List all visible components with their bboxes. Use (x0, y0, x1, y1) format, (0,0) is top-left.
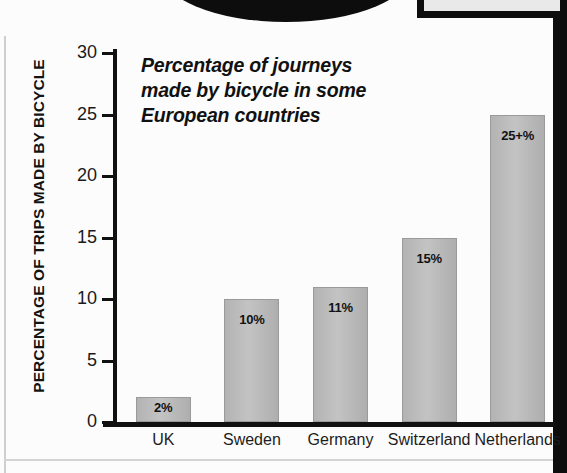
bar-germany: 11% (313, 287, 368, 422)
y-tick-5: 5 (102, 360, 113, 363)
bar-netherlands: 25+% (490, 115, 545, 423)
category-label-uk: UK (119, 431, 208, 449)
category-label-netherlands: Netherlands (473, 431, 562, 449)
bar-value-sweden: 10% (225, 312, 278, 327)
y-tick-label-5: 5 (87, 350, 97, 371)
y-tick-label-15: 15 (77, 227, 97, 248)
category-label-germany: Germany (296, 431, 385, 449)
y-axis-line (113, 49, 117, 426)
y-tick-label-30: 30 (77, 42, 97, 63)
page-left-rule (4, 36, 6, 473)
y-tick-label-20: 20 (77, 165, 97, 186)
y-tick-10: 10 (102, 298, 113, 301)
y-tick-0: 0 (102, 421, 113, 424)
chart-title-line-1: Percentage of journeys (141, 53, 366, 78)
chart-title-line-3: European countries (141, 103, 366, 128)
y-axis-title: PERCENTAGE OF TRIPS MADE BY BICYCLE (30, 26, 48, 426)
plot-area: 051015202530 Percentage of journeys made… (113, 53, 556, 422)
bar-value-germany: 11% (314, 300, 367, 315)
page-bottom-rule (4, 459, 553, 461)
category-label-sweden: Sweden (208, 431, 297, 449)
chart-title: Percentage of journeys made by bicycle i… (141, 53, 366, 128)
chart-title-line-2: made by bicycle in some (141, 78, 366, 103)
bar-switzerland: 15% (402, 238, 457, 423)
bar-value-switzerland: 15% (403, 251, 456, 266)
y-tick-label-25: 25 (77, 104, 97, 125)
bar-value-netherlands: 25+% (491, 128, 544, 143)
bar-sweden: 10% (224, 299, 279, 422)
category-label-switzerland: Switzerland (385, 431, 474, 449)
y-tick-label-0: 0 (87, 411, 97, 432)
bar-uk: 2% (136, 397, 191, 422)
y-tick-label-10: 10 (77, 288, 97, 309)
y-tick-30: 30 (102, 52, 113, 55)
y-tick-25: 25 (102, 114, 113, 117)
y-tick-15: 15 (102, 237, 113, 240)
bar-value-uk: 2% (137, 400, 190, 415)
chart-page: PERCENTAGE OF TRIPS MADE BY BICYCLE 0510… (0, 0, 567, 473)
y-tick-20: 20 (102, 175, 113, 178)
decorative-framed-box (417, 0, 567, 18)
x-axis-line (103, 422, 556, 427)
